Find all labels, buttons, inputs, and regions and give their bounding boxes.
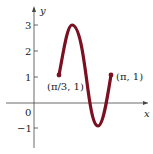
y-ticks — [34, 25, 38, 128]
y-tick-label: −1 — [17, 123, 32, 134]
start-point — [57, 73, 62, 78]
x-axis-arrow-icon — [143, 101, 148, 105]
start-point-label: (π/3, 1) — [47, 81, 84, 92]
curve — [59, 25, 111, 126]
x-axis-label: x — [144, 108, 150, 119]
end-point-label: (π, 1) — [116, 71, 143, 82]
y-axis-label: y — [39, 5, 46, 16]
end-point — [109, 73, 114, 78]
y-tick-label: 3 — [25, 20, 31, 31]
y-tick-label: 1 — [25, 72, 31, 83]
y-tick-label: 2 — [25, 46, 31, 57]
chart: 3 2 1 0 −1 y x (π/3, 1) (π, 1) — [0, 0, 153, 154]
y-axis-arrow-icon — [32, 6, 36, 12]
origin-label: 0 — [25, 107, 31, 118]
